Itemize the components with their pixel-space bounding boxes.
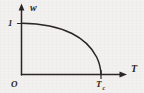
y-axis-label: w — [30, 2, 37, 13]
x-tick-label-tc-subscript: c — [103, 85, 106, 91]
origin-label: O — [11, 79, 18, 89]
y-tick-label-one: 1 — [8, 18, 13, 28]
y-axis-arrowhead-icon — [19, 4, 25, 11]
order-parameter-curve — [22, 23, 102, 74]
order-parameter-plot: w T O 1 T c — [0, 0, 144, 93]
x-axis-label: T — [131, 63, 138, 74]
figure-canvas: w T O 1 T c — [0, 0, 144, 93]
x-axis-arrowhead-icon — [120, 72, 128, 78]
x-tick-label-tc: T — [96, 79, 102, 89]
